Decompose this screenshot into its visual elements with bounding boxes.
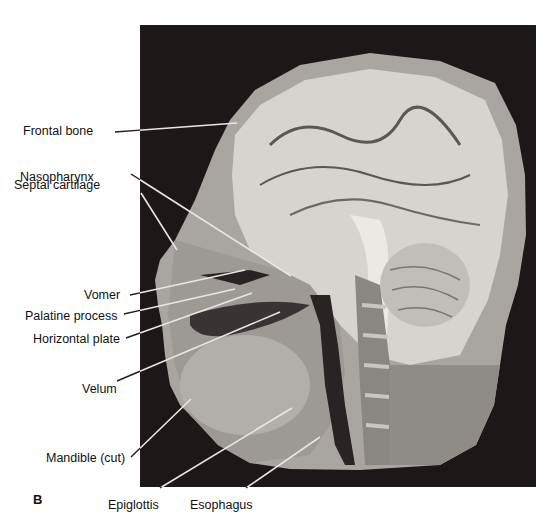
label-horizontal-plate: Horizontal plate xyxy=(33,332,120,346)
leader-line-outside xyxy=(246,487,247,488)
leader-line-outside xyxy=(115,130,140,132)
leader-lines xyxy=(0,0,558,527)
label-mandible-cut: Mandible (cut) xyxy=(46,451,125,465)
leader-line-outside xyxy=(126,333,140,338)
leader-line xyxy=(131,174,291,276)
leader-line-outside xyxy=(124,310,140,314)
leader-line xyxy=(141,193,177,250)
anatomy-figure: B Frontal bone Nasopharynx Septal cartil… xyxy=(0,0,558,527)
leader-line xyxy=(246,437,320,488)
leader-line-outside xyxy=(117,371,140,381)
label-vomer: Vomer xyxy=(84,288,120,302)
label-esophagus: Esophagus xyxy=(190,498,253,512)
leader-line-outside xyxy=(160,487,162,488)
leader-line xyxy=(160,408,292,488)
label-palatine-process: Palatine process xyxy=(25,309,117,323)
label-velum: Velum xyxy=(82,382,117,396)
leader-line-outside xyxy=(131,448,140,457)
leader-line-outside xyxy=(131,174,140,180)
leader-line xyxy=(117,312,280,381)
label-frontal-bone: Frontal bone xyxy=(23,124,93,138)
panel-letter: B xyxy=(33,492,42,507)
label-epiglottis: Epiglottis xyxy=(108,498,159,512)
label-septal-cartilage: Septal cartilage xyxy=(14,178,100,192)
